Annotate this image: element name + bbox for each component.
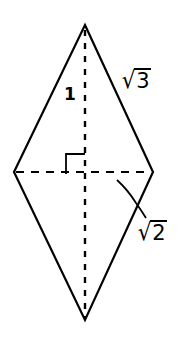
label-half-horizontal-diagonal: √ 2 — [137, 220, 167, 244]
sqrt-symbol: √ — [122, 68, 136, 92]
label-side-length: √ 3 — [121, 68, 151, 92]
radicand: 3 — [134, 68, 150, 92]
label-half-diagonal: 1 — [64, 86, 76, 103]
sqrt-symbol: √ — [138, 220, 152, 244]
radicand: 2 — [150, 220, 166, 244]
rhombus-diagram — [0, 0, 192, 337]
